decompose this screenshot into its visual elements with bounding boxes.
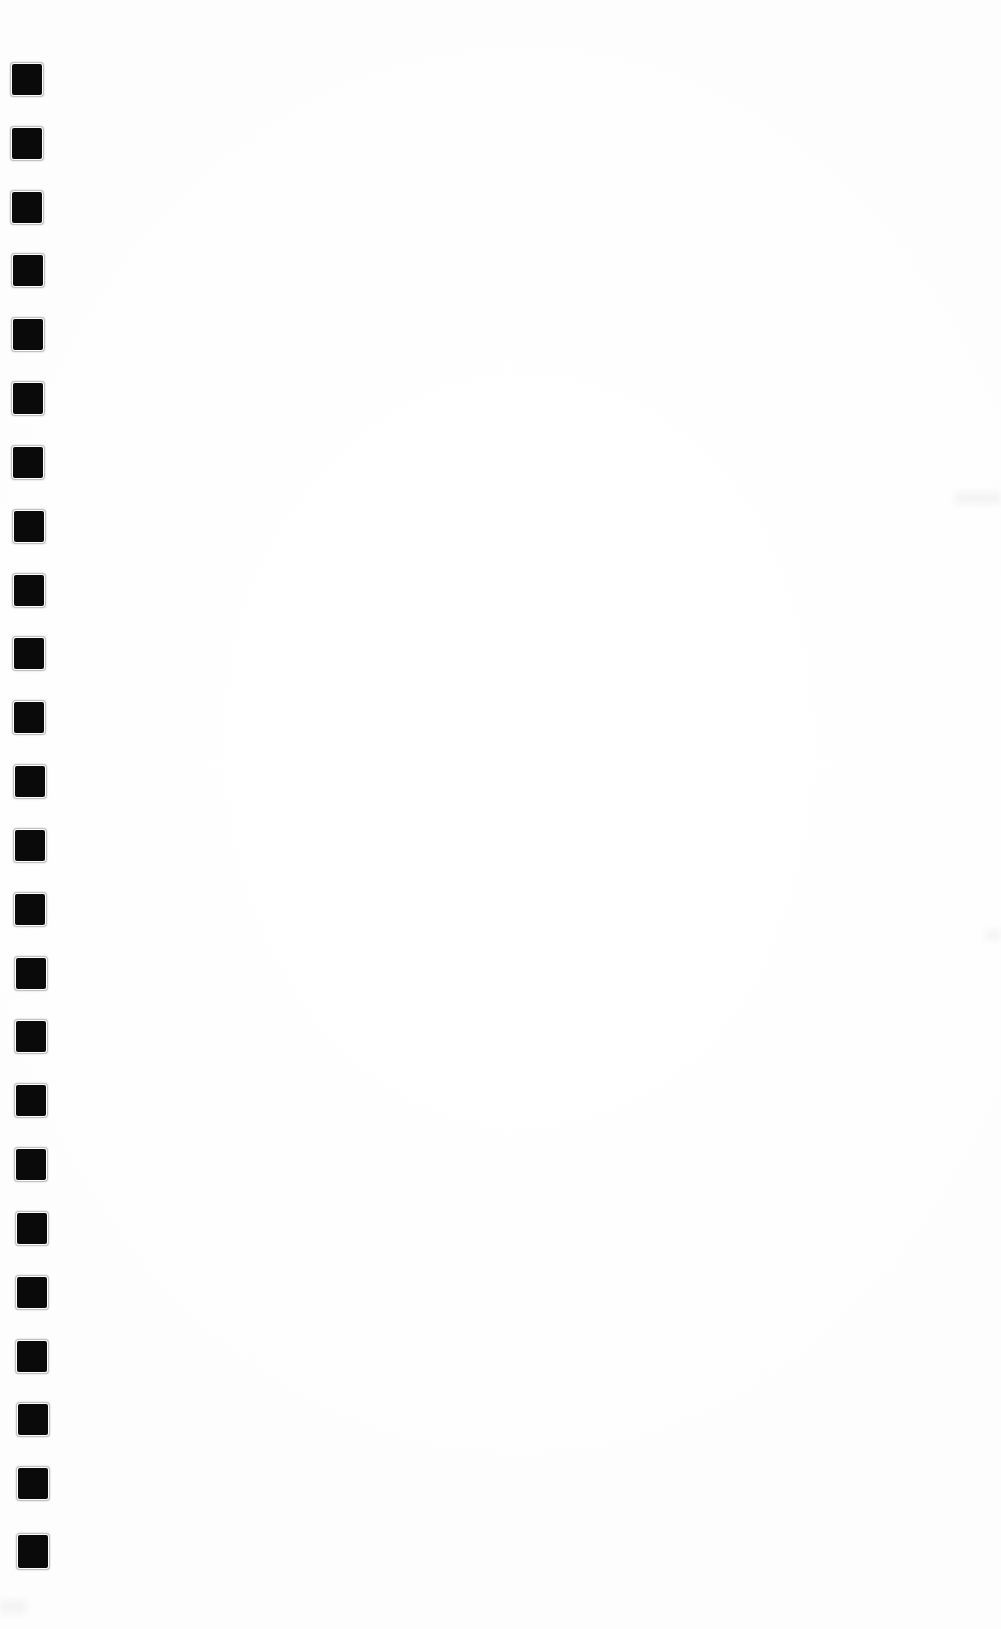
registration-mark — [12, 64, 42, 95]
paper-background — [0, 0, 1001, 1629]
registration-mark — [16, 958, 46, 989]
registration-mark — [14, 702, 44, 733]
scan-artifact-1 — [955, 492, 1001, 504]
registration-mark — [16, 1021, 46, 1052]
registration-mark — [15, 894, 45, 925]
registration-mark — [14, 638, 44, 669]
registration-mark — [13, 383, 43, 414]
registration-mark — [14, 575, 44, 606]
scanned-page — [0, 0, 1001, 1629]
registration-mark — [13, 319, 43, 350]
registration-mark — [12, 128, 42, 159]
registration-mark — [15, 766, 45, 797]
registration-mark — [17, 1277, 47, 1308]
registration-mark-column — [0, 0, 90, 1629]
registration-mark — [18, 1535, 48, 1568]
registration-mark — [12, 192, 42, 223]
registration-mark — [15, 830, 45, 861]
scan-artifact-2 — [986, 930, 1001, 940]
registration-mark — [18, 1468, 48, 1499]
registration-mark — [17, 1341, 47, 1372]
registration-mark — [17, 1213, 47, 1244]
registration-mark — [16, 1149, 46, 1180]
registration-mark — [18, 1404, 48, 1435]
registration-mark — [16, 1085, 46, 1116]
registration-mark — [14, 511, 44, 542]
registration-mark — [13, 255, 43, 286]
registration-mark — [13, 447, 43, 478]
